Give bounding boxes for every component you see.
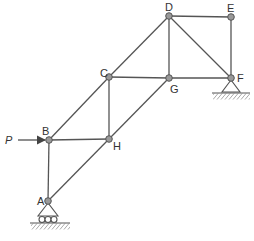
member-de bbox=[169, 16, 231, 17]
joint-f bbox=[228, 75, 235, 82]
joint-h bbox=[106, 136, 113, 143]
member-df bbox=[169, 16, 231, 78]
node-label-c: C bbox=[100, 67, 108, 79]
load-label: P bbox=[5, 134, 13, 146]
pin-support-f bbox=[212, 80, 250, 100]
joint-b bbox=[46, 137, 53, 144]
joint-d bbox=[166, 13, 173, 20]
truss-members bbox=[48, 16, 231, 201]
member-cd bbox=[109, 16, 169, 77]
node-label-f: F bbox=[237, 72, 244, 84]
member-bh bbox=[49, 139, 109, 140]
joint-a bbox=[45, 198, 52, 205]
node-labels: A B H C G D E F bbox=[37, 1, 244, 207]
member-cg bbox=[109, 77, 169, 78]
roller-support-a bbox=[30, 203, 70, 230]
node-label-h: H bbox=[113, 140, 121, 152]
node-label-e: E bbox=[227, 2, 234, 14]
node-label-g: G bbox=[170, 83, 179, 95]
member-bc bbox=[49, 77, 109, 140]
member-ab bbox=[48, 140, 49, 201]
node-label-b: B bbox=[42, 125, 49, 137]
member-ah bbox=[48, 139, 109, 201]
joint-e bbox=[228, 14, 235, 21]
joint-g bbox=[166, 75, 173, 82]
member-hg bbox=[109, 78, 169, 139]
node-label-d: D bbox=[165, 1, 173, 13]
load-arrow-p: P bbox=[5, 134, 45, 146]
node-label-a: A bbox=[37, 195, 45, 207]
truss-diagram: P A B H C G D E F bbox=[0, 0, 254, 241]
